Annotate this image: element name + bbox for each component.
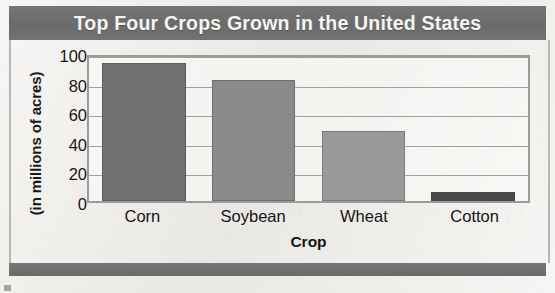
- bar-slot: [199, 57, 309, 201]
- chart-body: (in millions of acres) 100806040200 Corn…: [9, 40, 550, 263]
- y-axis-title-container: (in millions of acres): [23, 48, 49, 238]
- x-axis-tick-label: Soybean: [198, 207, 309, 226]
- bar-slot: [89, 57, 199, 201]
- bar-slot: [309, 57, 419, 201]
- chart-figure: Top Four Crops Grown in the United State…: [0, 0, 555, 293]
- y-axis-tick-label: 20: [69, 165, 87, 184]
- chart-title-bar: Top Four Crops Grown in the United State…: [9, 6, 546, 40]
- chart-title: Top Four Crops Grown in the United State…: [74, 12, 482, 35]
- y-axis-title: (in millions of acres): [28, 71, 45, 215]
- x-axis-title: Crop: [87, 233, 530, 251]
- y-axis-tick-label: 40: [69, 135, 87, 154]
- y-axis-tick-labels: 100806040200: [53, 45, 87, 210]
- x-axis-tick-label: Corn: [87, 207, 198, 226]
- x-axis-tick-label: Cotton: [419, 207, 530, 226]
- plot-area: [87, 55, 530, 203]
- bar-soybean: [212, 80, 295, 201]
- bar-corn: [102, 63, 185, 201]
- chart-footer-bar: [9, 263, 546, 276]
- page-edge-mark: [4, 285, 11, 291]
- bar-cotton: [431, 192, 514, 201]
- bars-container: [89, 57, 528, 201]
- y-axis-tick-label: 80: [69, 76, 87, 95]
- x-axis-tick-label: Wheat: [309, 207, 420, 226]
- bar-wheat: [322, 131, 405, 201]
- x-axis-tick-labels: CornSoybeanWheatCotton: [87, 207, 530, 226]
- y-axis-tick-label: 60: [69, 106, 87, 125]
- bar-slot: [418, 57, 528, 201]
- y-axis-tick-label: 100: [59, 47, 87, 66]
- y-axis-tick-label: 0: [78, 195, 87, 214]
